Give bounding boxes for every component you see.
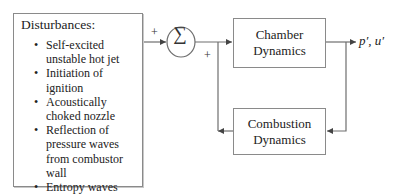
disturbances-box: Disturbances: Self-excited unstable hot … (13, 13, 143, 187)
combustion-label-line1: Combustion (248, 116, 312, 132)
plus-sign-feedback: + (204, 48, 211, 63)
chamber-dynamics-block: Chamber Dynamics (233, 18, 326, 68)
feedback-to-combustion-arrow (327, 42, 346, 131)
disturbance-item: Entropy waves (14, 180, 142, 194)
combustion-dynamics-block: Combustion Dynamics (233, 108, 326, 155)
disturbances-title: Disturbances: (21, 17, 95, 33)
disturbances-list: Self-excited unstable hot jet Initiation… (14, 38, 142, 194)
disturbance-item: Reflection of pressure waves from combus… (14, 123, 142, 180)
output-label: p′, u′ (359, 33, 384, 49)
disturbance-item: Acoustically choked nozzle (14, 95, 142, 123)
disturbance-item: Initiation of ignition (14, 66, 142, 94)
chamber-label-line2: Dynamics (253, 43, 306, 59)
plus-sign-disturbance: + (151, 25, 158, 40)
chamber-label-line1: Chamber (253, 27, 306, 43)
sigma-symbol: ∑ (173, 23, 187, 45)
combustion-label-line2: Dynamics (248, 132, 312, 148)
disturbance-item: Self-excited unstable hot jet (14, 38, 142, 66)
